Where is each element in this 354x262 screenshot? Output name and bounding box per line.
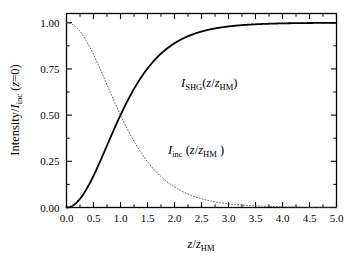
- x-axis-title: z/zHM: [187, 237, 215, 253]
- x-axis-major-ticks: [67, 14, 337, 208]
- x-title-sub: HM: [201, 243, 215, 253]
- svg-text:Intensity/Iinc (z=0): Intensity/Iinc (z=0): [8, 64, 24, 155]
- svg-text:ISHG(z/zHM): ISHG(z/zHM): [180, 76, 237, 92]
- y-tick-label: 1.00: [40, 17, 60, 29]
- y-axis-title: Intensity/Iinc (z=0): [8, 64, 24, 155]
- chart-canvas: 0.00.51.01.52.02.53.03.54.04.55.0 0.000.…: [0, 0, 354, 262]
- inc-curve-label: Iinc (z/zHM ): [167, 143, 224, 159]
- shg-label-sub: SHG: [185, 82, 202, 92]
- x-tick-label: 5.0: [330, 212, 344, 224]
- shg-label-sub2: HM: [220, 82, 234, 92]
- inc-label-sub2: HM: [203, 149, 217, 159]
- x-tick-label: 0.5: [87, 212, 101, 224]
- x-tick-label: 1.0: [114, 212, 128, 224]
- y-tick-label: 0.25: [40, 155, 60, 167]
- shg-label-close: ): [233, 76, 237, 90]
- svg-text:z/zHM: z/zHM: [187, 237, 215, 253]
- y-axis-major-ticks: [67, 23, 337, 208]
- x-axis-minor-ticks: [80, 14, 323, 208]
- shg-curve-label: ISHG(z/zHM): [180, 76, 237, 92]
- figure-container: 0.00.51.01.52.02.53.03.54.04.55.0 0.000.…: [0, 0, 354, 262]
- data-series-group: [67, 23, 337, 208]
- y-axis-tick-labels: 0.000.250.500.751.00: [40, 17, 60, 214]
- y-tick-label: 0.00: [40, 202, 60, 214]
- inc-label-open: (: [183, 143, 190, 157]
- x-axis-tick-labels: 0.00.51.01.52.02.53.03.54.04.55.0: [60, 212, 344, 224]
- y-tick-label: 0.75: [40, 63, 60, 75]
- axes-frame: [67, 14, 337, 208]
- x-tick-label: 1.5: [141, 212, 155, 224]
- series-line: [67, 23, 337, 208]
- y-title-sub: inc: [14, 94, 24, 105]
- x-tick-label: 3.5: [249, 212, 263, 224]
- y-title-eq: =0): [8, 64, 22, 81]
- inc-label-sub: inc: [172, 149, 183, 159]
- y-axis-minor-ticks: [67, 46, 337, 185]
- x-tick-label: 2.5: [195, 212, 209, 224]
- plot-frame: [67, 14, 337, 208]
- x-tick-label: 4.0: [276, 212, 290, 224]
- x-tick-label: 0.0: [60, 212, 74, 224]
- x-tick-label: 4.5: [303, 212, 317, 224]
- y-tick-label: 0.50: [40, 109, 60, 121]
- inc-label-close: ): [217, 143, 224, 157]
- x-tick-label: 3.0: [222, 212, 236, 224]
- svg-text:Iinc (z/zHM ): Iinc (z/zHM ): [167, 143, 224, 159]
- x-tick-label: 2.0: [168, 212, 182, 224]
- y-title-main: Intensity/: [8, 108, 22, 156]
- series-line: [67, 23, 337, 208]
